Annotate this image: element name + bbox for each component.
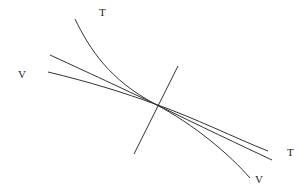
diagram-canvas: T V T V (0, 0, 308, 196)
steep-curve (75, 19, 250, 178)
label-top-T: T (99, 6, 106, 18)
label-left-V: V (18, 68, 26, 80)
lower-line (48, 72, 268, 151)
label-right-T: T (287, 146, 294, 158)
label-bottom-V: V (255, 173, 263, 185)
